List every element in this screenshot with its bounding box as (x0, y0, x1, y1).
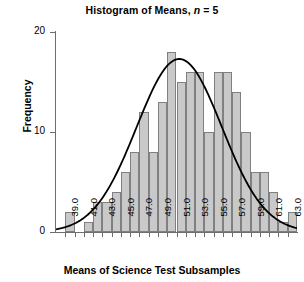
y-tick-label: 0 (39, 225, 45, 236)
x-tick-mark (288, 233, 289, 237)
y-tick-mark (50, 32, 55, 33)
x-tick-mark (177, 233, 178, 237)
x-tick-mark (65, 233, 66, 237)
x-tick-mark (84, 233, 85, 237)
y-tick-label: 10 (34, 125, 45, 136)
x-tick-label: 63.0 (292, 198, 303, 238)
y-tick-mark (50, 232, 55, 233)
x-tick-label: 43.0 (106, 198, 117, 238)
y-axis-label: Frequency (21, 46, 33, 166)
x-tick-mark (195, 233, 196, 237)
x-tick-mark (232, 233, 233, 237)
x-tick-mark (158, 233, 159, 237)
x-tick-label: 53.0 (199, 198, 210, 238)
x-tick-label: 47.0 (143, 198, 154, 238)
x-tick-mark (214, 233, 215, 237)
x-tick-label: 41.0 (88, 198, 99, 238)
x-tick-mark (269, 233, 270, 237)
x-axis-label: Means of Science Test Subsamples (0, 264, 304, 276)
x-tick-mark (251, 233, 252, 237)
x-tick-label: 39.0 (69, 198, 80, 238)
x-tick-label: 57.0 (236, 198, 247, 238)
y-tick-label: 20 (34, 25, 45, 36)
x-tick-mark (102, 233, 103, 237)
x-tick-label: 59.0 (255, 198, 266, 238)
x-tick-label: 49.0 (162, 198, 173, 238)
chart-title: Histogram of Means, n = 5 (0, 4, 304, 16)
x-tick-label: 45.0 (125, 198, 136, 238)
histogram-figure: Histogram of Means, n = 5 01020 Frequenc… (0, 0, 304, 282)
chart-title-prefix: Histogram of Means, (86, 4, 194, 16)
x-tick-label: 55.0 (218, 198, 229, 238)
x-tick-label: 61.0 (273, 198, 284, 238)
chart-title-suffix: = 5 (200, 4, 218, 16)
y-tick-mark (50, 132, 55, 133)
x-tick-mark (121, 233, 122, 237)
x-tick-label: 51.0 (181, 198, 192, 238)
x-tick-mark (139, 233, 140, 237)
